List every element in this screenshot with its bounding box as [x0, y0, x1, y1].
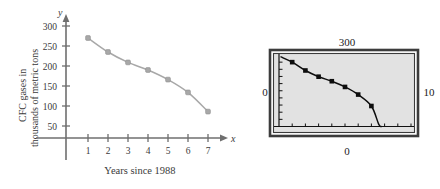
y-axis-label-line1: CFC gases in: [17, 69, 28, 122]
y-axis-label-line2: thousands of metric tons: [29, 49, 40, 147]
data-point-2: [106, 50, 111, 55]
data-curve: [88, 38, 208, 112]
calculator-viewport: [274, 54, 415, 133]
calc-data-point-3: [316, 74, 321, 79]
calc-data-point-6: [356, 92, 361, 97]
x-tick-label-5: 5: [166, 146, 171, 156]
data-series: [86, 36, 211, 114]
x-tick-label-1: 1: [86, 146, 91, 156]
calc-label-top: 300: [339, 36, 356, 48]
left-graph-svg: CFC gases in thousands of metric tons y …: [0, 0, 245, 189]
y-axis-letter: y: [57, 7, 63, 18]
x-axis-arrowhead: [220, 135, 228, 142]
calc-label-bottom: 0: [344, 145, 350, 157]
calc-data-point-4: [330, 79, 335, 84]
x-tick-label-2: 2: [106, 146, 111, 156]
y-tick-label-150: 150: [43, 82, 58, 92]
calc-data-point-5: [343, 85, 348, 90]
calculator-svg: 300 0 10 0: [255, 0, 440, 189]
data-point-7: [206, 109, 211, 114]
data-point-3: [126, 60, 131, 65]
x-tick-label-6: 6: [186, 146, 191, 156]
data-point-1: [86, 36, 91, 41]
x-tick-label-3: 3: [126, 146, 131, 156]
calc-data-point-7: [369, 104, 374, 109]
calc-label-right: 10: [424, 86, 436, 98]
y-tick-label-250: 250: [43, 42, 58, 52]
x-axis-letter: x: [230, 133, 236, 144]
x-tick-label-4: 4: [146, 146, 151, 156]
y-axis-arrowhead: [63, 14, 70, 22]
y-tick-label-100: 100: [43, 102, 58, 112]
calc-data-point-1: [290, 60, 295, 65]
figure-container: CFC gases in thousands of metric tons y …: [0, 0, 440, 189]
y-tick-label-200: 200: [43, 62, 58, 72]
data-point-4: [146, 68, 151, 73]
x-tick-label-7: 7: [206, 146, 211, 156]
calculator-screen: 300 0 10 0: [255, 0, 440, 189]
x-axis-caption: Years since 1988: [104, 165, 175, 176]
left-line-graph: CFC gases in thousands of metric tons y …: [0, 0, 245, 189]
calc-label-left: 0: [262, 86, 268, 98]
data-point-6: [186, 90, 191, 95]
data-point-5: [166, 77, 171, 82]
y-tick-label-300: 300: [43, 22, 58, 32]
y-axis-label: CFC gases in thousands of metric tons: [17, 49, 40, 147]
y-tick-label-50: 50: [48, 122, 58, 132]
calc-data-point-2: [303, 68, 308, 73]
